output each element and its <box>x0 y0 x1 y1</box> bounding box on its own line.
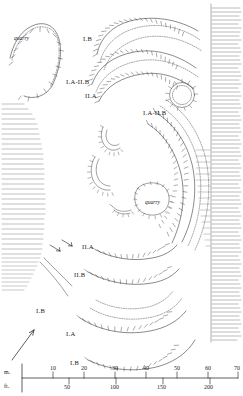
ring-feature-hachures <box>166 79 198 110</box>
rampart-IB-north-crest <box>97 18 198 54</box>
rampart-IB-north-hachures <box>93 18 184 57</box>
rampart-IIB-south-hachures <box>85 267 172 284</box>
rampart-IA-south-crest <box>80 311 186 333</box>
rampart-IB-north-counterscarp <box>100 25 202 70</box>
scale-imperial-tick-100: 100 <box>110 384 119 390</box>
right-edge-hachure-band <box>211 4 241 342</box>
ring-feature-northeast <box>170 83 195 108</box>
scale-metric-tick-10: 10 <box>50 365 56 371</box>
quarry-label-northwest: quarry <box>14 36 29 42</box>
rampart-label-IIA-lower: II.A <box>82 244 94 251</box>
rampart-IIA-south-crest <box>96 245 177 260</box>
rampart-IA-IIB-north-counterscarp <box>96 60 198 92</box>
scale-metric-ticks <box>53 372 238 378</box>
plan-linework <box>2 4 241 392</box>
scale-unit-imperial: ft. <box>4 383 9 389</box>
scale-metric-tick-20: 20 <box>81 365 87 371</box>
rampart-label-IIA-left: II.A <box>85 93 97 100</box>
right-edge-inner-hachure <box>196 150 210 246</box>
north-arrow <box>12 330 34 360</box>
rampart-label-IB-top: I.B <box>83 36 92 43</box>
scale-imperial-ticks <box>69 378 210 384</box>
interior-arc-upper <box>101 127 120 150</box>
scale-imperial-tick-50: 50 <box>64 384 70 390</box>
interior-arc-small <box>112 206 131 214</box>
site-plan-figure <box>0 0 243 396</box>
rampart-label-IIB-lower: II.B <box>74 272 86 279</box>
rampart-IA-IIB-east-hachures <box>153 108 188 236</box>
rampart-IIA-east-crest <box>148 124 183 243</box>
rampart-IIA-north-hachures <box>95 72 178 103</box>
rampart-label-IB-bottom: I.B <box>70 360 79 367</box>
rampart-label-IA-IIB-right: I.A-II.B <box>143 110 166 117</box>
entrance-arrows <box>50 240 72 251</box>
scale-metric-tick-50: 50 <box>174 365 180 371</box>
interior-arc-lower <box>91 157 110 190</box>
rampart-IA-IIB-north-crest <box>92 51 196 84</box>
scale-metric-tick-30: 30 <box>112 365 118 371</box>
scale-unit-metric: m. <box>4 369 10 375</box>
scale-metric-tick-70: 70 <box>234 365 240 371</box>
rampart-IA-IIB-east-counterscarp <box>160 100 209 250</box>
scale-imperial-tick-200: 200 <box>204 384 213 390</box>
scale-metric-tick-40: 40 <box>143 365 149 371</box>
quarry-label-center: quarry <box>145 200 160 206</box>
rampart-IA-IIB-east-crest <box>155 112 195 242</box>
rampart-IA-south-hachures <box>77 312 172 332</box>
scale-imperial-tick-150: 150 <box>157 384 166 390</box>
rampart-IB-south-hachures <box>85 345 179 371</box>
entrance-hollow-way <box>90 291 182 319</box>
rampart-IA-IIB-north-hachures <box>88 49 178 86</box>
interior-arc-small-hachures <box>110 204 134 217</box>
rampart-IIA-north-crest <box>99 73 194 101</box>
rampart-label-IA-IIB-left: I.A-II.B <box>66 79 89 86</box>
rampart-label-IB-left: I.B <box>36 308 45 315</box>
lower-left-linework <box>40 258 72 296</box>
rampart-label-IA-bottom: I.A <box>66 331 75 338</box>
scale-metric-tick-60: 60 <box>205 365 211 371</box>
left-slope-hachures-lower <box>2 258 40 290</box>
rampart-IIA-south-hachures <box>93 244 170 259</box>
left-slope-hachures <box>2 104 45 254</box>
